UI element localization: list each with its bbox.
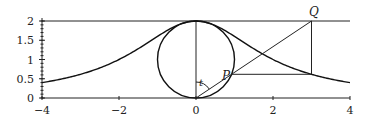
x-tick-label: −4 (34, 104, 50, 117)
y-tick-label: 1 (27, 54, 34, 67)
label-angle-t: t (199, 77, 204, 88)
x-tick-label: 4 (347, 104, 354, 117)
line-origin-to-q (196, 21, 312, 98)
witch-of-agnesi-diagram: 00.511.52−4−2024 Q P t (0, 0, 371, 123)
label-p: P (221, 69, 231, 83)
x-tick-label: 0 (193, 104, 200, 117)
y-tick-label: 1.5 (17, 34, 35, 47)
x-tick-label: 2 (270, 104, 277, 117)
y-tick-label: 2 (27, 15, 34, 28)
x-tick-label: −2 (111, 104, 127, 117)
label-q: Q (309, 5, 319, 19)
y-tick-label: 0.5 (17, 73, 35, 86)
